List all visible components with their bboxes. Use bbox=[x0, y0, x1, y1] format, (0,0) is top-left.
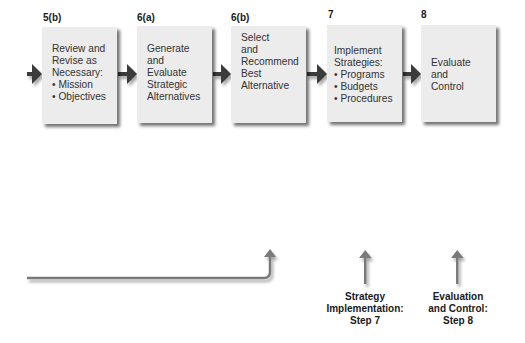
box-line: Strategic bbox=[147, 79, 200, 91]
box-line: • Procedures bbox=[334, 93, 393, 105]
box-line: Select bbox=[241, 32, 299, 44]
box-line: and bbox=[147, 55, 200, 67]
caption-line: and Control: bbox=[418, 303, 498, 315]
feedback-arrow bbox=[27, 249, 276, 278]
caption-evaluation-control: Evaluation and Control: Step 8 bbox=[418, 291, 498, 327]
box-line: • Objectives bbox=[52, 91, 106, 103]
step-label-7: 7 bbox=[328, 9, 334, 20]
step-label-5b: 5(b) bbox=[43, 12, 61, 23]
caption-line: Evaluation bbox=[418, 291, 498, 303]
box-line: • Budgets bbox=[334, 81, 393, 93]
step-label-6b: 6(b) bbox=[231, 12, 249, 23]
box-line: Necessary: bbox=[52, 67, 106, 79]
box-line: Strategies: bbox=[334, 57, 393, 69]
box-line: • Mission bbox=[52, 79, 106, 91]
caption-line: Step 7 bbox=[325, 315, 405, 327]
step-box-select-recommend: Select and Recommend Best Alternative bbox=[231, 26, 306, 123]
box-line: Revise as bbox=[52, 55, 106, 67]
arrow-6a-to-6b bbox=[213, 64, 231, 84]
box-line: Recommend bbox=[241, 56, 299, 68]
step-label-8: 8 bbox=[421, 9, 427, 20]
box-line: Evaluate bbox=[147, 67, 200, 79]
box-line: Evaluate bbox=[431, 57, 471, 69]
arrow-6b-to-7 bbox=[307, 64, 327, 84]
up-arrow-step-8 bbox=[451, 250, 464, 284]
box-line: Alternatives bbox=[147, 91, 200, 103]
caption-line: Step 8 bbox=[418, 315, 498, 327]
step-box-generate-evaluate: Generate and Evaluate Strategic Alternat… bbox=[137, 26, 212, 123]
box-line: Review and bbox=[52, 43, 106, 55]
step-box-evaluate-control: Evaluate and Control bbox=[421, 25, 496, 122]
box-line: and bbox=[241, 44, 299, 56]
box-line: Alternative bbox=[241, 80, 299, 92]
step-box-review-revise: Review and Revise as Necessary: • Missio… bbox=[42, 27, 117, 124]
caption-line: Implementation: bbox=[325, 303, 405, 315]
box-line: Generate bbox=[147, 43, 200, 55]
box-line: Best bbox=[241, 68, 299, 80]
box-line: and bbox=[431, 69, 471, 81]
box-line: • Programs bbox=[334, 69, 393, 81]
box-line: Control bbox=[431, 81, 471, 93]
caption-line: Strategy bbox=[325, 291, 405, 303]
arrow-into-step-5b bbox=[27, 64, 42, 84]
arrow-5b-to-6a bbox=[118, 64, 137, 84]
step-label-6a: 6(a) bbox=[137, 12, 155, 23]
arrow-7-to-8 bbox=[403, 64, 421, 84]
step-box-implement-strategies: Implement Strategies: • Programs • Budge… bbox=[327, 25, 402, 122]
caption-strategy-implementation: Strategy Implementation: Step 7 bbox=[325, 291, 405, 327]
box-line: Implement bbox=[334, 45, 393, 57]
up-arrow-step-7 bbox=[359, 250, 372, 284]
